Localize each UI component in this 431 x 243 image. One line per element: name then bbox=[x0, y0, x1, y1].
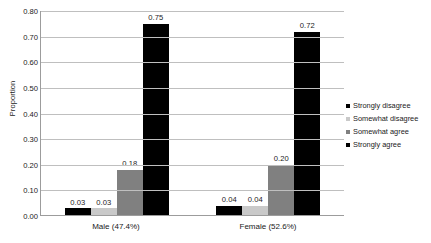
legend-swatch-icon bbox=[346, 104, 350, 108]
bar-value-label: 0.03 bbox=[70, 198, 85, 207]
bar[interactable] bbox=[294, 32, 320, 217]
legend-item[interactable]: Somewhat disagree bbox=[346, 112, 431, 125]
y-axis-tick-label: 0.10 bbox=[8, 186, 38, 195]
bar[interactable] bbox=[143, 24, 169, 216]
legend-label: Somewhat agree bbox=[353, 128, 409, 135]
bar-value-label: 0.04 bbox=[248, 195, 263, 204]
legend-item[interactable]: Somewhat agree bbox=[346, 125, 431, 138]
gridline bbox=[41, 114, 344, 115]
bar-value-label: 0.03 bbox=[96, 198, 111, 207]
y-axis-tick-labels: 0.800.700.600.500.400.300.200.100.00 bbox=[8, 0, 38, 243]
gridline bbox=[41, 139, 344, 140]
bar[interactable] bbox=[117, 170, 143, 216]
y-axis-tick-label: 0.60 bbox=[8, 58, 38, 67]
bar-value-label: 0.04 bbox=[222, 195, 237, 204]
y-axis-tick-label: 0.30 bbox=[8, 135, 38, 144]
x-axis-line bbox=[41, 215, 344, 216]
chart-legend: Strongly disagreeSomewhat disagreeSomewh… bbox=[346, 99, 431, 151]
gridline bbox=[41, 62, 344, 63]
y-axis-tick-label: 0.70 bbox=[8, 32, 38, 41]
legend-label: Strongly agree bbox=[353, 141, 401, 148]
bar-value-label: 0.75 bbox=[148, 13, 163, 22]
legend-swatch-icon bbox=[346, 130, 350, 134]
gridline bbox=[41, 88, 344, 89]
legend-item[interactable]: Strongly agree bbox=[346, 138, 431, 151]
y-axis-tick-label: 0.80 bbox=[8, 7, 38, 16]
plot-area: 0.030.030.180.750.040.040.200.72 bbox=[40, 11, 344, 216]
x-axis-category-label: Female (52.6%) bbox=[192, 222, 344, 231]
gridline bbox=[41, 11, 344, 12]
legend-label: Strongly disagree bbox=[353, 102, 411, 109]
y-axis-tick-label: 0.40 bbox=[8, 109, 38, 118]
bar-value-label: 0.72 bbox=[300, 21, 315, 30]
y-axis-tick-label: 0.50 bbox=[8, 83, 38, 92]
bar-value-label: 0.20 bbox=[274, 154, 289, 163]
x-axis-category-label: Male (47.4%) bbox=[40, 222, 192, 231]
legend-swatch-icon bbox=[346, 143, 350, 147]
gridline bbox=[41, 190, 344, 191]
y-axis-tick-label: 0.00 bbox=[8, 212, 38, 221]
legend-item[interactable]: Strongly disagree bbox=[346, 99, 431, 112]
x-axis-category-labels: Male (47.4%)Female (52.6%) bbox=[40, 222, 344, 231]
bar-chart: Proportion 0.800.700.600.500.400.300.200… bbox=[0, 0, 431, 243]
y-axis-tick-label: 0.20 bbox=[8, 160, 38, 169]
legend-swatch-icon bbox=[346, 117, 350, 121]
gridline bbox=[41, 165, 344, 166]
gridline bbox=[41, 37, 344, 38]
legend-label: Somewhat disagree bbox=[353, 115, 418, 122]
